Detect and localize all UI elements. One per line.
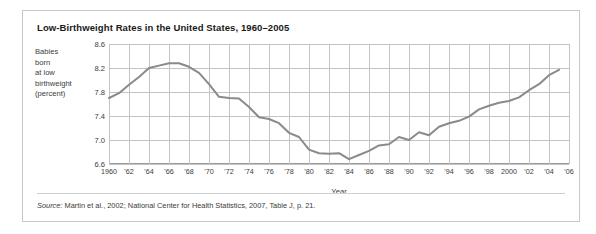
- y-axis-tick-label: 7.8: [94, 88, 105, 97]
- y-axis-tick-label: 7.0: [94, 136, 105, 145]
- x-axis-tick-label: '74: [244, 167, 253, 176]
- y-axis-caption-line: born: [35, 58, 95, 69]
- data-series-line: [109, 44, 569, 164]
- x-axis-tick-label: '78: [284, 167, 293, 176]
- footer-divider: [37, 193, 565, 194]
- y-axis-caption-line: (percent): [35, 89, 95, 100]
- x-axis-tick-label: '82: [324, 167, 333, 176]
- source-note: Source: Martin et al., 2002; National Ce…: [37, 201, 315, 210]
- series-polyline: [109, 63, 559, 159]
- x-axis-tick-label: '90: [404, 167, 413, 176]
- y-axis-caption: Babies born at low birthweight (percent): [35, 47, 95, 100]
- source-label: Source:: [37, 201, 62, 210]
- page-title: Low-Birthweight Rates in the United Stat…: [37, 22, 289, 33]
- x-axis-tick-label: '98: [484, 167, 493, 176]
- x-axis-tick-label: '84: [344, 167, 353, 176]
- x-axis-tick-label: '76: [264, 167, 273, 176]
- y-axis-tick-label: 8.6: [94, 40, 105, 49]
- figure-page: Low-Birthweight Rates in the United Stat…: [0, 0, 596, 234]
- x-axis-tick-label: 1960: [101, 167, 117, 176]
- x-axis-tick-label: '80: [304, 167, 313, 176]
- x-axis-tick-label: 2000: [501, 167, 517, 176]
- x-axis-tick-label: '62: [124, 167, 133, 176]
- x-axis-tick-label: '94: [444, 167, 453, 176]
- line-chart-plot-area: 6.67.07.47.88.28.6 1960'62'64'66'68'70'7…: [109, 44, 569, 164]
- y-axis-caption-line: birthweight: [35, 79, 95, 90]
- x-axis-tick-label: '06: [564, 167, 573, 176]
- y-axis-tick-label: 7.4: [94, 112, 105, 121]
- gridline-horizontal: [109, 164, 569, 165]
- x-axis-tick-label: '92: [424, 167, 433, 176]
- figure-card: Low-Birthweight Rates in the United Stat…: [22, 10, 580, 222]
- x-axis-tick-label: '04: [544, 167, 553, 176]
- x-axis-tick-label: '68: [184, 167, 193, 176]
- x-axis-tick-label: '88: [384, 167, 393, 176]
- x-axis-tick-label: '72: [224, 167, 233, 176]
- x-axis-tick-label: '02: [524, 167, 533, 176]
- x-axis-tick-label: '64: [144, 167, 153, 176]
- x-axis-tick-label: '66: [164, 167, 173, 176]
- gridline-vertical: [569, 44, 570, 164]
- x-axis-title: Year: [109, 187, 569, 196]
- source-body: Martin et al., 2002; National Center for…: [62, 201, 315, 210]
- y-axis-tick-label: 8.2: [94, 64, 105, 73]
- x-axis-tick-label: '86: [364, 167, 373, 176]
- x-axis-tick-label: '96: [464, 167, 473, 176]
- y-axis-caption-line: Babies: [35, 47, 95, 58]
- y-axis-caption-line: at low: [35, 68, 95, 79]
- x-axis-tick-label: '70: [204, 167, 213, 176]
